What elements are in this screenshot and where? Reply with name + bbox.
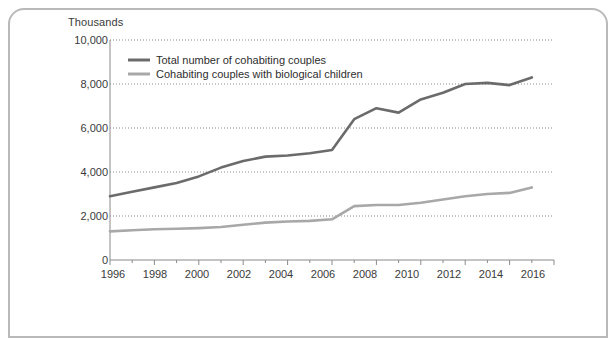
x-tick-2000: 2000 [185, 268, 209, 280]
x-tick-2012: 2012 [437, 268, 461, 280]
x-tick-2006: 2006 [311, 268, 335, 280]
legend-label-with-children: Cohabiting couples with biological child… [156, 68, 363, 80]
x-tick-2004: 2004 [269, 268, 293, 280]
legend-label-total: Total number of cohabiting couples [156, 54, 326, 66]
x-tick-2014: 2014 [479, 268, 503, 280]
x-tick-2002: 2002 [227, 268, 251, 280]
x-tick-2008: 2008 [353, 268, 377, 280]
x-tick-2016: 2016 [521, 268, 545, 280]
x-tick-1996: 1996 [101, 268, 125, 280]
x-tick-1998: 1998 [143, 268, 167, 280]
x-tick-2010: 2010 [395, 268, 419, 280]
